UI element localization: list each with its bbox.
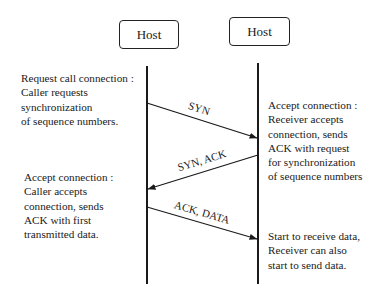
note-caller-accept-connection: Accept connection : Caller accepts conne… [24,170,113,241]
message-label-ack-data: ACK, DATA [173,198,231,225]
note-start-receive-data: Start to receive data, Receiver can also… [268,229,360,272]
message-label-syn-ack: SYN, ACK [176,147,227,173]
note-request-call-connection: Request call connection : Caller request… [21,71,134,128]
note-receiver-accept-connection: Accept connection : Receiver accepts con… [268,98,362,184]
message-label-syn: SYN [187,99,212,117]
